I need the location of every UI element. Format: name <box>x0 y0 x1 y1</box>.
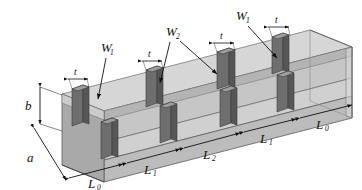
dimension-b: b <box>25 87 62 131</box>
dimension-b-ext-top <box>40 87 62 95</box>
iris-face-front <box>220 86 231 127</box>
iris-back-3 <box>217 48 235 89</box>
dimension-label-L0-symbol: L <box>87 176 95 190</box>
dimension-label-L0-symbol: L <box>315 117 323 132</box>
iris-face-front <box>72 85 83 126</box>
dimension-label-L1-subscript: 1 <box>153 169 157 178</box>
iris-face-front <box>277 71 288 112</box>
dimension-t-ext-b <box>288 27 290 35</box>
iris-face-side <box>288 71 294 110</box>
iris-face-front <box>272 33 283 74</box>
dimension-t-ext-b <box>87 79 89 87</box>
waveguide-filter-figure: b a t t t t W 1 W 2 <box>0 0 362 190</box>
iris-face-front <box>146 66 157 107</box>
iris-face-side <box>157 66 163 105</box>
dimension-t-ext-a <box>214 43 217 52</box>
dimension-label-t: t <box>148 49 151 59</box>
iris-face-front <box>101 118 112 159</box>
dimension-label-L1-subscript: 1 <box>269 138 273 147</box>
iris-front-4 <box>277 71 294 112</box>
iris-back-1 <box>72 85 89 126</box>
dimension-t-ext-b <box>233 43 235 50</box>
dimension-label-t: t <box>275 15 278 25</box>
dimension-label-L0-subscript: 0 <box>97 183 101 190</box>
diagram-canvas: b a t t t t W 1 W 2 <box>0 0 362 190</box>
dimension-label-L1-symbol: L <box>259 131 267 146</box>
dimension-t-ext-a <box>69 79 72 89</box>
dimension-t-4: t <box>268 15 290 37</box>
dimension-label-a: a <box>27 150 34 165</box>
dimension-t-ext-b <box>161 61 163 68</box>
iris-face-side <box>83 85 89 124</box>
dimension-a-line <box>34 128 66 180</box>
iris-front-3 <box>220 86 237 127</box>
iris-face-side <box>171 102 177 141</box>
iris-face-side <box>231 86 237 125</box>
dimension-t-ext-a <box>143 61 146 70</box>
iris-face-front <box>160 102 171 143</box>
iris-face-side <box>112 118 118 157</box>
dimension-b-ext-bottom <box>40 124 62 131</box>
label-w1-subscript: 1 <box>110 48 114 57</box>
dimension-a: a <box>27 128 66 180</box>
dimension-label-L1-symbol: L <box>143 162 151 177</box>
dimension-label-L2-subscript: 2 <box>212 154 216 163</box>
iris-face-side <box>283 33 289 72</box>
dimension-label-t: t <box>74 67 77 77</box>
iris-face-side <box>229 48 235 87</box>
iris-back-4 <box>272 33 289 74</box>
iris-back-2 <box>146 66 163 107</box>
dimension-t-ext-a <box>269 27 272 37</box>
dimension-label-t: t <box>220 31 223 41</box>
dimension-label-L2-symbol: L <box>202 147 210 162</box>
dimension-label-L0-subscript: 0 <box>325 124 329 133</box>
dimension-label-b: b <box>25 98 32 113</box>
iris-front-2 <box>160 102 177 143</box>
iris-front-1 <box>101 118 118 159</box>
label-w1-subscript: 1 <box>246 16 250 25</box>
right-end-open-face <box>346 47 352 118</box>
label-w2-subscript: 2 <box>176 32 180 41</box>
